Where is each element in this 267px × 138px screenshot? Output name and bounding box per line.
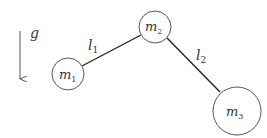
mass-m3: m3 xyxy=(213,87,261,135)
link-l1-label: l1 xyxy=(88,37,98,55)
link-l1: l1 xyxy=(82,35,141,66)
mass-m2: m2 xyxy=(139,11,171,43)
gravity-label: g xyxy=(30,25,39,41)
gravity-indicator: g xyxy=(20,25,39,79)
link-l2: l2 xyxy=(167,38,220,92)
mass-m1: m1 xyxy=(52,58,84,90)
link-l2-label: l2 xyxy=(196,47,206,65)
diagram-canvas: g l1 l2 m1 m2 m3 xyxy=(0,0,267,138)
